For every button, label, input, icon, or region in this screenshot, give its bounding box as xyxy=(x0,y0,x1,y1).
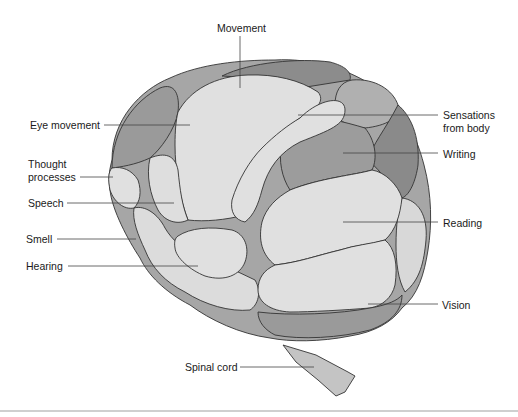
label-hearing: Hearing xyxy=(26,260,63,273)
label-sensations-line2: from body xyxy=(443,122,495,135)
spinal-cord-region xyxy=(283,345,355,396)
label-writing: Writing xyxy=(443,148,475,161)
label-thought-line2: processes xyxy=(28,171,76,184)
label-smell: Smell xyxy=(26,233,52,246)
label-thought-processes: Thought processes xyxy=(28,158,76,183)
label-sensations-from-body: Sensations from body xyxy=(443,109,495,134)
label-speech: Speech xyxy=(28,197,64,210)
label-eye-movement: Eye movement xyxy=(30,119,100,132)
label-spinal-cord: Spinal cord xyxy=(185,361,238,374)
brain-diagram xyxy=(0,0,518,417)
label-sensations-line1: Sensations xyxy=(443,109,495,122)
label-reading: Reading xyxy=(443,217,482,230)
bottom-divider xyxy=(0,410,518,412)
label-vision: Vision xyxy=(442,299,470,312)
label-thought-line1: Thought xyxy=(28,158,76,171)
label-movement: Movement xyxy=(217,22,266,35)
